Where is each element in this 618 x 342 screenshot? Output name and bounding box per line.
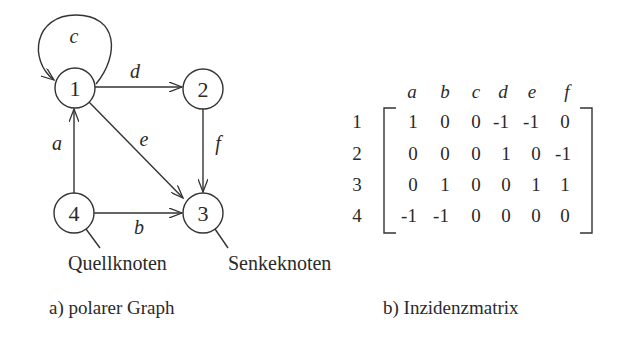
sink-leader (215, 229, 228, 248)
source-node-annotation: Quellknoten (68, 252, 167, 274)
matrix-caption: b) Inzidenzmatrix (383, 297, 519, 319)
node-1-label: 1 (70, 76, 81, 101)
matrix-bracket-left (384, 108, 396, 233)
cell: 0 (408, 143, 418, 164)
cell: 1 (408, 111, 418, 132)
row-label-3: 3 (352, 174, 362, 195)
node-3-label: 3 (198, 201, 209, 226)
cell: -1 (555, 143, 571, 164)
cell: -1 (433, 205, 449, 226)
cell: -1 (493, 111, 509, 132)
cell: 0 (531, 205, 541, 226)
cell: 0 (471, 143, 481, 164)
diagram-canvas: 1 2 3 4 c d a e f b Quellknoten Senkekno… (0, 0, 618, 342)
col-header-d: d (498, 81, 508, 102)
edge-e (89, 102, 183, 198)
cell: 0 (501, 174, 511, 195)
cell: 0 (471, 111, 481, 132)
cell: 1 (560, 174, 570, 195)
edge-label-b: b (134, 216, 144, 238)
cell: 0 (440, 143, 450, 164)
col-header-c: c (472, 81, 481, 102)
source-leader (86, 229, 100, 248)
edge-label-e: e (140, 128, 149, 150)
sink-node-annotation: Senkeknoten (228, 252, 331, 274)
row-label-1: 1 (352, 111, 362, 132)
cell: 0 (531, 143, 541, 164)
node-2-label: 2 (198, 77, 209, 102)
cell: -1 (401, 205, 417, 226)
cell: 0 (560, 205, 570, 226)
cell: 0 (408, 174, 418, 195)
cell: 0 (501, 205, 511, 226)
row-label-4: 4 (352, 205, 362, 226)
cell: 1 (531, 174, 541, 195)
edge-label-a: a (52, 132, 62, 154)
edge-label-c: c (70, 25, 79, 47)
col-header-f: f (564, 81, 572, 102)
edge-label-f: f (215, 132, 223, 155)
cell: 1 (440, 174, 450, 195)
cell: 0 (440, 111, 450, 132)
edge-label-d: d (130, 60, 141, 82)
col-header-e: e (528, 81, 536, 102)
col-header-a: a (407, 81, 417, 102)
cell: 1 (501, 143, 511, 164)
node-4-label: 4 (69, 201, 80, 226)
row-label-2: 2 (352, 143, 362, 164)
cell: 0 (560, 111, 570, 132)
col-header-b: b (440, 81, 450, 102)
graph-caption: a) polarer Graph (49, 297, 175, 319)
cell: 0 (471, 205, 481, 226)
cell: -1 (523, 111, 539, 132)
cell: 0 (471, 174, 481, 195)
matrix-bracket-right (580, 108, 592, 233)
